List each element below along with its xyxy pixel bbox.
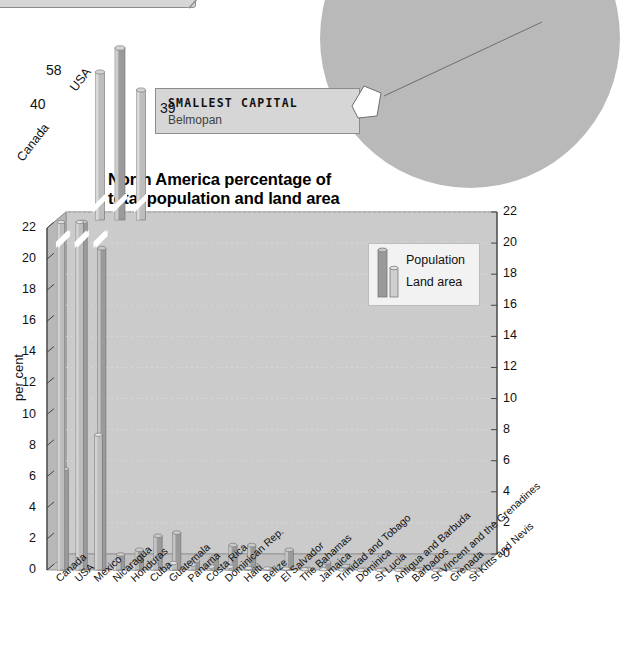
- y-axis-tick-left: 6: [14, 469, 36, 483]
- y-axis-title: per cent: [11, 343, 26, 413]
- y-axis-tick-left: 22: [14, 220, 36, 234]
- y-axis-tick-right: 22: [503, 204, 525, 218]
- y-axis-tick-left: 18: [14, 282, 36, 296]
- y-axis-tick-left: 8: [14, 438, 36, 452]
- legend-label-land-area: Land area: [406, 275, 462, 289]
- y-axis-tick-right: 10: [503, 391, 525, 405]
- chart-legend: Population Land area: [368, 243, 480, 306]
- y-axis-tick-left: 0: [14, 562, 36, 576]
- y-axis-tick-right: 16: [503, 297, 525, 311]
- y-axis-tick-right: 20: [503, 235, 525, 249]
- y-axis-tick-left: 4: [14, 500, 36, 514]
- axis-break-value-label: 58: [46, 62, 62, 78]
- y-axis-tick-left: 20: [14, 251, 36, 265]
- y-axis-tick-right: 18: [503, 266, 525, 280]
- y-axis-tick-right: 14: [503, 328, 525, 342]
- y-axis-tick-left: 16: [14, 313, 36, 327]
- y-axis-tick-right: 12: [503, 359, 525, 373]
- axis-break-value-label: 40: [30, 96, 46, 112]
- y-axis-tick-right: 6: [503, 453, 525, 467]
- y-axis-tick-right: 8: [503, 422, 525, 436]
- legend-label-population: Population: [406, 253, 465, 267]
- y-axis-tick-left: 2: [14, 531, 36, 545]
- axis-break-value-label: 39: [160, 100, 176, 116]
